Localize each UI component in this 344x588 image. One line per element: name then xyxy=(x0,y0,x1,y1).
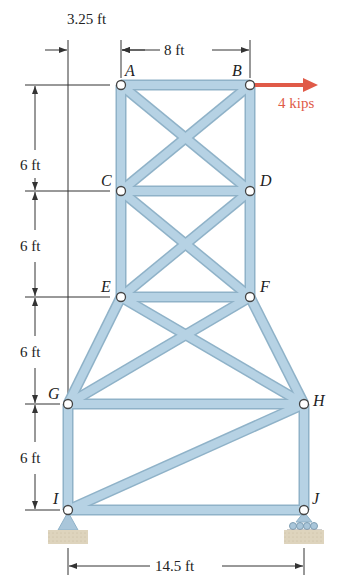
joint-E xyxy=(117,293,126,302)
load-label: 4 kips xyxy=(278,95,314,111)
joint-F xyxy=(246,293,255,302)
joint-J xyxy=(300,506,309,515)
node-label-F: F xyxy=(259,278,270,295)
node-label-A: A xyxy=(124,62,135,79)
load-arrow xyxy=(254,78,318,92)
roller-support-J xyxy=(284,512,324,544)
node-label-D: D xyxy=(259,172,272,189)
dim-base-width: 14.5 ft xyxy=(155,558,195,574)
joint-I xyxy=(64,506,73,515)
joint-G xyxy=(64,400,73,409)
joint-H xyxy=(300,400,309,409)
dim-height-1: 6 ft xyxy=(20,157,41,173)
node-label-B: B xyxy=(232,62,242,79)
node-label-I: I xyxy=(52,490,59,507)
node-label-G: G xyxy=(48,385,60,402)
node-label-H: H xyxy=(312,392,326,409)
joint-B xyxy=(246,81,255,90)
dim-top-width: 8 ft xyxy=(164,42,185,58)
dim-top-offset: 3.25 ft xyxy=(67,11,107,27)
node-label-J: J xyxy=(312,490,320,507)
member-IH xyxy=(68,404,304,510)
node-label-E: E xyxy=(100,278,111,295)
pin-support-I xyxy=(48,512,88,544)
truss-diagram: 3.25 ft 8 ft 6 ft 6 ft 6 ft 6 ft 14.5 ft… xyxy=(0,0,344,588)
node-label-C: C xyxy=(101,172,112,189)
dim-height-2: 6 ft xyxy=(20,238,41,254)
dim-height-4: 6 ft xyxy=(20,450,41,466)
joint-C xyxy=(117,187,126,196)
dim-height-3: 6 ft xyxy=(20,344,41,360)
joint-D xyxy=(246,187,255,196)
joint-A xyxy=(117,81,126,90)
